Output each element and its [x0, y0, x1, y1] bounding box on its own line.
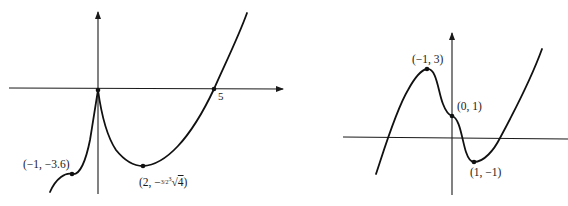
left-label-minimum-fraction: 3/2	[161, 179, 169, 185]
right-point-maximum	[425, 67, 430, 72]
left-label-minimum-suffix: )	[184, 176, 188, 188]
left-label-inflection: (−1, −3.6)	[23, 159, 70, 171]
left-x-axis	[9, 88, 283, 89]
right-point-minimum	[472, 160, 477, 165]
left-point-minimum	[141, 164, 146, 169]
right-graph	[343, 33, 568, 195]
right-point-inflection	[450, 114, 455, 119]
left-point-inflection	[70, 172, 75, 177]
left-label-minimum-prefix: (2, −	[139, 176, 161, 188]
right-label-minimum: (1, −1)	[470, 167, 501, 179]
left-curve	[50, 13, 247, 192]
right-label-inflection: (0, 1)	[457, 101, 482, 113]
left-label-minimum: (2, −3/23√4)	[139, 176, 187, 188]
left-x-tick-5: 5	[218, 91, 224, 102]
right-x-axis	[343, 137, 568, 139]
right-label-maximum: (−1, 3)	[412, 54, 443, 66]
left-point-cusp	[96, 88, 101, 93]
left-point-x-intercept	[212, 87, 217, 92]
